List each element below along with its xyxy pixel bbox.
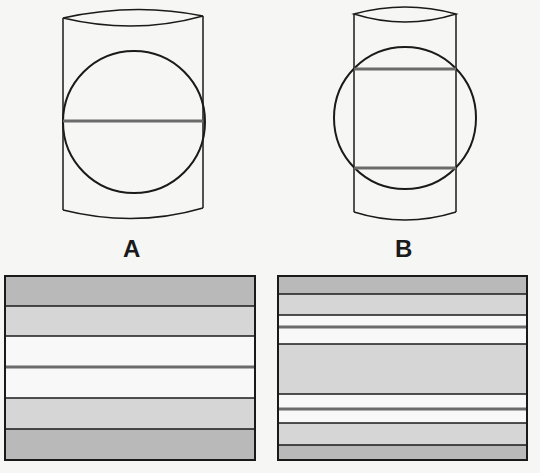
strip-a <box>5 276 255 460</box>
panel-label-a: A <box>123 235 140 262</box>
strip-b <box>278 276 527 460</box>
diagram-canvas: A B <box>0 0 540 473</box>
cylinder-b <box>334 7 476 220</box>
panel-label-b: B <box>395 235 412 262</box>
cylinder-a <box>63 9 205 218</box>
